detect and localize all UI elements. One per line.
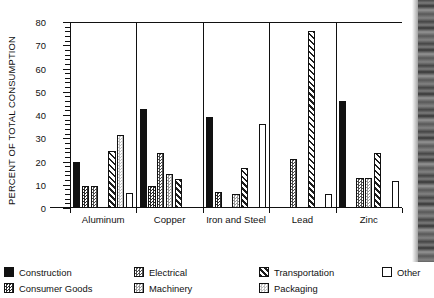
legend-label: Machinery [149,283,192,294]
y-minor-tick [65,36,71,37]
bar-packaging-aluminum [117,135,124,208]
y-tick-label: 50 [36,86,46,97]
x-axis-line [50,207,402,208]
y-tick-label: 0 [41,203,46,214]
y-minor-tick [65,166,71,167]
legend-item-construction: Construction [4,264,92,280]
bar-transportation-lead [308,31,315,208]
y-minor-tick [65,82,71,83]
x-axis-label-iron-and-steel: Iron and Steel [206,214,266,225]
bar-machinery-copper [166,174,173,208]
y-minor-tick [65,148,71,149]
bar-machinery-iron-and-steel [232,194,239,208]
bar-other-lead [325,194,332,208]
legend-label: Packaging [274,283,318,294]
legend-swatch-transportation [259,267,269,277]
y-minor-tick [65,180,71,181]
y-major-tick [63,115,71,116]
y-major-tick [63,185,71,186]
legend-column-4: Other [382,264,420,296]
legend-item-packaging: Packaging [259,280,334,296]
legend-label: Electrical [149,267,187,278]
bar-construction-iron-and-steel [206,117,213,208]
bar-transportation-zinc [374,153,381,208]
y-minor-tick [65,175,71,176]
legend-label: Construction [19,267,72,278]
x-group-tick [70,208,71,213]
bar-electrical-lead [290,159,297,208]
y-minor-tick [65,199,71,200]
x-axis-label-aluminum: Aluminum [82,214,125,225]
y-major-tick [63,22,71,23]
y-major-tick [63,69,71,70]
bar-construction-copper [140,109,147,208]
x-group-tick [402,208,403,213]
y-minor-tick [65,59,71,60]
x-group-tick [336,208,337,213]
y-minor-tick [65,64,71,65]
y-minor-tick [65,96,71,97]
legend-swatch-other [382,267,392,277]
y-minor-tick [65,152,71,153]
legend-swatch-machinery [134,283,144,293]
plot-top-border [70,22,402,23]
legend-item-other: Other [382,264,420,280]
bar-other-iron-and-steel [259,124,266,208]
x-group-tick [136,208,137,213]
y-major-tick [63,45,71,46]
y-minor-tick [65,78,71,79]
legend-column-1: ConstructionConsumer Goods [4,264,92,296]
y-minor-tick [65,203,71,204]
y-minor-tick [65,189,71,190]
y-major-tick [63,162,71,163]
group-divider-line [269,22,270,208]
y-major-tick [63,138,71,139]
legend-item-electrical: Electrical [134,264,192,280]
y-minor-tick [65,171,71,172]
y-minor-tick [65,31,71,32]
legend-column-3: TransportationPackaging [259,264,334,296]
group-divider-line [136,22,137,208]
legend-swatch-packaging [259,283,269,293]
bar-machinery-zinc [365,178,372,208]
bar-consumer-goods-iron-and-steel [215,192,222,208]
bar-construction-aluminum [73,162,80,209]
legend-item-consumer-goods: Consumer Goods [4,280,92,296]
y-tick-label: 20 [36,156,46,167]
legend-column-2: ElectricalMachinery [134,264,192,296]
y-minor-tick [65,124,71,125]
y-minor-tick [65,157,71,158]
legend-swatch-consumer-goods [4,283,14,293]
group-divider-line [336,22,337,208]
y-minor-tick [65,101,71,102]
legend-swatch-electrical [134,267,144,277]
y-minor-tick [65,129,71,130]
bar-construction-zinc [339,101,346,208]
bar-transportation-iron-and-steel [241,168,248,208]
legend-item-transportation: Transportation [259,264,334,280]
bar-electrical-aluminum [91,186,98,208]
y-minor-tick [65,106,71,107]
y-axis-title: PERCENT OF TOTAL CONSUMPTION [0,0,22,240]
bar-electrical-zinc [356,178,363,208]
y-tick-label: 70 [36,40,46,51]
bar-other-aluminum [126,193,133,208]
y-minor-tick [65,55,71,56]
x-group-tick [203,208,204,213]
y-tick-label: 30 [36,133,46,144]
x-axis-label-copper: Copper [154,214,185,225]
legend-label: Consumer Goods [19,283,92,294]
legend-label: Other [397,267,420,278]
y-tick-label: 60 [36,63,46,74]
y-axis-tick-labels: 01020304050607080 [22,22,48,208]
y-minor-tick [65,134,71,135]
y-minor-tick [65,73,71,74]
y-minor-tick [65,194,71,195]
bar-consumer-goods-aluminum [82,186,89,208]
y-minor-tick [65,50,71,51]
legend-item-machinery: Machinery [134,280,192,296]
chart-plot-area: 01020304050607080 AluminumCopperIron and… [22,22,418,237]
y-minor-tick [65,143,71,144]
scan-edge-artifact [418,0,434,262]
x-axis-category-labels: AluminumCopperIron and SteelLeadZinc [50,214,402,230]
